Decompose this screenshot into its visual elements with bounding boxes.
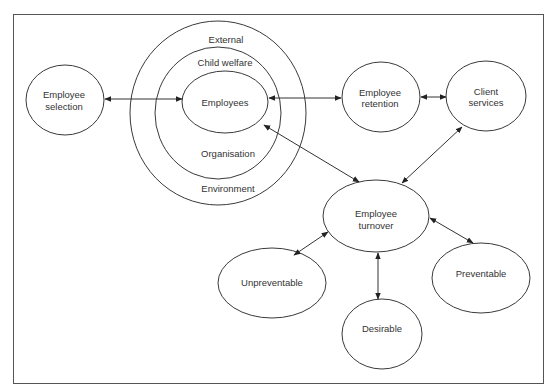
node-label-employee-turnover-2: turnover (359, 220, 394, 231)
node-label-employee-turnover-1: Employee (355, 208, 397, 219)
edge-employees-turnover (264, 125, 359, 182)
node-label-employee-selection-2: selection (45, 101, 83, 112)
edge-client-services-turnover (402, 127, 462, 183)
ring-label-environment: Environment (201, 183, 255, 194)
node-label-employee-retention-2: retention (362, 98, 399, 109)
node-label-client-services-1: Client (474, 86, 499, 97)
diagram-canvas: External Child welfare Employees Organis… (0, 0, 554, 392)
edge-turnover-preventable (430, 218, 473, 243)
node-label-employees: Employees (202, 97, 249, 108)
edge-turnover-unpreventable (294, 232, 328, 255)
node-label-employee-selection-1: Employee (43, 89, 85, 100)
node-label-unpreventable: Unpreventable (241, 277, 303, 288)
ring-label-external: External (209, 34, 244, 45)
ring-label-child-welfare: Child welfare (198, 57, 253, 68)
desirable-node (342, 299, 422, 369)
ring-label-organisation: Organisation (201, 148, 255, 159)
node-label-desirable: Desirable (362, 323, 402, 334)
node-label-client-services-2: services (469, 97, 504, 108)
employee-selection-node (26, 65, 104, 135)
node-label-preventable: Preventable (456, 268, 507, 279)
node-label-employee-retention-1: Employee (359, 87, 401, 98)
